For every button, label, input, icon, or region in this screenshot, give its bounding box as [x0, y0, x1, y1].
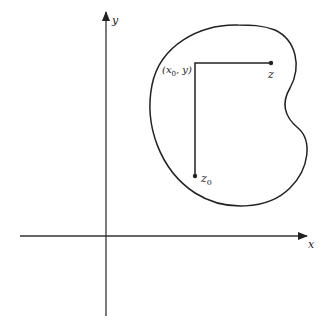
label-corner: (x0, y) — [162, 64, 192, 78]
label-z0: z0 — [200, 172, 212, 187]
region-boundary — [150, 25, 307, 206]
label-z0-sub: 0 — [207, 178, 212, 187]
point-z0 — [193, 174, 197, 178]
x-axis-label: x — [308, 238, 315, 251]
y-axis-label: y — [111, 14, 119, 27]
label-z: z — [267, 68, 274, 81]
diagram-canvas: x y z z0 (x0, y) — [0, 0, 336, 331]
point-z — [269, 61, 273, 65]
integration-path — [195, 63, 271, 176]
label-corner-suffix: , y) — [176, 64, 192, 75]
label-corner-prefix: (x — [162, 64, 172, 75]
